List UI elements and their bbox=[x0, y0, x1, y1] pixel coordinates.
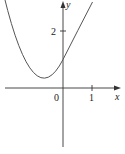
x-axis-label: x bbox=[114, 91, 120, 102]
origin-label: 0 bbox=[54, 92, 59, 103]
function-graph: y x 0 1 2 bbox=[0, 0, 125, 154]
x-tick-1-label: 1 bbox=[89, 92, 94, 103]
curve bbox=[4, 0, 93, 78]
y-axis-arrow-icon bbox=[61, 1, 66, 8]
x-axis-arrow-icon bbox=[114, 86, 121, 91]
y-tick-2-label: 2 bbox=[51, 26, 56, 37]
y-axis-label: y bbox=[65, 0, 71, 10]
